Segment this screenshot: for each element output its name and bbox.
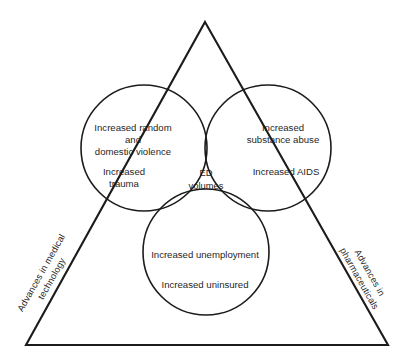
left-circle-line-1: Increased random [94,122,171,133]
right-circle-line-3: Increased AIDS [253,166,320,177]
ed-volumes-line-1: ED [199,167,212,178]
venn-triangle-figure: Increased random and domestic violence I… [0,0,409,362]
right-circle-line-1: Increased [262,122,304,133]
left-circle-line-5: trauma [109,178,140,189]
bottom-circle-line-2: Increased uninsured [162,279,249,290]
diagram-root: Increased random and domestic violence I… [0,0,409,362]
bottom-circle-line-1: Increased unemployment [151,249,259,260]
right-circle-line-2: substance abuse [247,134,320,145]
right-edge-label-group: Advances in pharmaceuticals [338,240,391,311]
left-circle-line-2: and [125,134,141,145]
left-circle-line-4: Increased [103,166,145,177]
left-circle-line-3: domestic violence [95,146,171,157]
ed-volumes-line-2: volumes [189,180,224,191]
